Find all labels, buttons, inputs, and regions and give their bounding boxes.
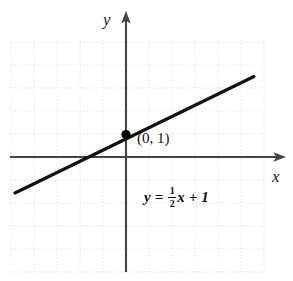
equation-variable: x (177, 190, 185, 205)
equation-lhs: y (144, 190, 151, 205)
equation-equals-sign: = (155, 190, 164, 205)
point-coordinate-label: (0, 1) (137, 131, 170, 146)
fraction-numerator: 1 (169, 186, 176, 197)
intercept-point (121, 130, 130, 139)
y-axis-label: y (103, 11, 111, 28)
x-axis-label: x (272, 168, 280, 185)
equation-constant: 1 (201, 190, 209, 205)
equation-plus-sign: + (189, 190, 198, 205)
x-axis (10, 152, 286, 162)
equation-fraction: 1 2 (168, 186, 176, 209)
equation-label: y = 1 2 x + 1 (144, 186, 209, 209)
fraction-denominator: 2 (169, 198, 176, 209)
graph-figure: y x (0, 1) y = 1 2 x + 1 (0, 0, 293, 281)
